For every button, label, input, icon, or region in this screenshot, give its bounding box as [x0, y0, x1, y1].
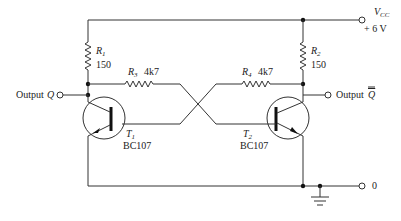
output-q-label: Output — [16, 89, 44, 100]
output-q-terminal[interactable] — [57, 92, 63, 98]
vcc-value: + 6 V — [364, 23, 387, 34]
zero-terminal[interactable] — [359, 183, 365, 189]
r1-value: 150 — [96, 59, 111, 70]
t1-emitter-arrow-icon — [93, 128, 100, 133]
output-qbar-terminal[interactable] — [325, 92, 331, 98]
output-q-symbol: Q — [47, 89, 55, 100]
circuit-diagram: VCC + 6 V R1 150 R2 150 Output Q R3 4k7 … — [0, 0, 401, 221]
t1-part: BC107 — [123, 140, 151, 151]
ground-icon — [311, 186, 329, 205]
r4-value: 4k7 — [258, 66, 273, 77]
zero-label: 0 — [372, 180, 377, 191]
t2-part: BC107 — [240, 140, 268, 151]
vcc-label: VCC — [374, 6, 390, 19]
output-qbar-label: Output — [336, 89, 364, 100]
transistor-t1 — [83, 95, 125, 186]
output-qbar-symbol: Q — [368, 89, 376, 100]
r2-value: 150 — [311, 59, 326, 70]
r3-ref: R3 — [127, 66, 138, 79]
t2-emitter-arrow-icon — [290, 127, 298, 134]
r2-ref: R2 — [310, 45, 321, 58]
junction-t2-emitter — [301, 184, 305, 188]
r4-ref: R4 — [241, 66, 252, 79]
r3-value: 4k7 — [144, 66, 159, 77]
r1-ref: R1 — [95, 45, 106, 58]
